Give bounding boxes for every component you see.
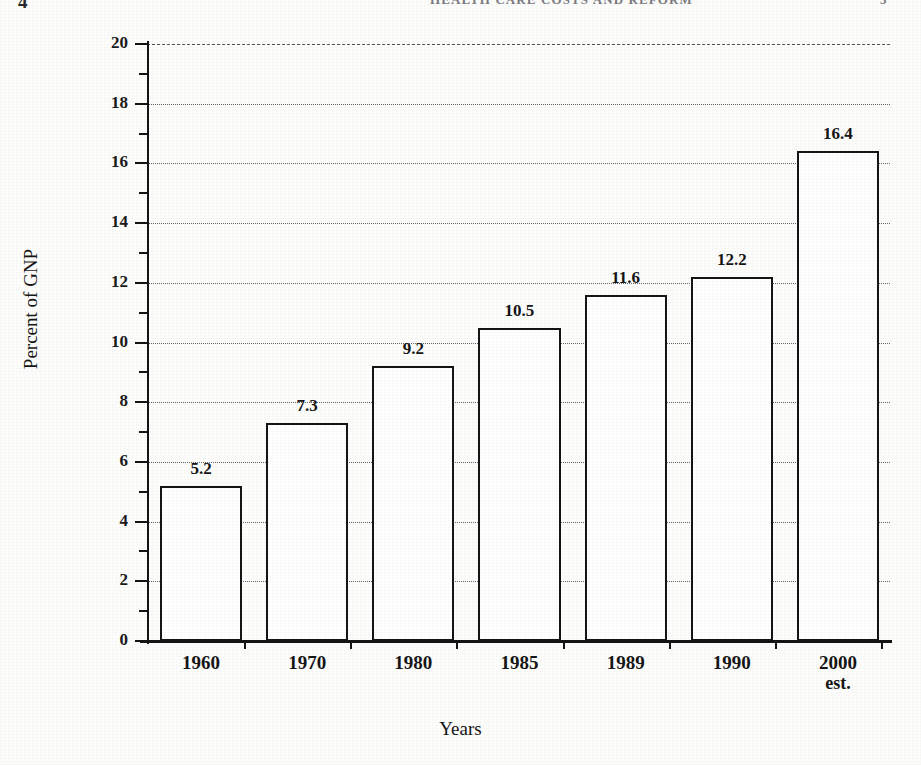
bar-1990 <box>691 277 773 641</box>
y-axis-title: Percent of GNP <box>20 199 42 419</box>
x-tick-sublabel-2000: est. <box>775 673 901 693</box>
y-tick-label-16: 16 <box>88 152 128 172</box>
x-axis-title: Years <box>0 718 921 740</box>
y-tick-16 <box>135 162 148 164</box>
y-tick-20 <box>135 43 148 45</box>
x-tick-1989 <box>669 640 671 649</box>
y-minor-tick-17 <box>139 133 148 135</box>
y-minor-tick-1 <box>139 610 148 612</box>
bar-value-label-1960: 5.2 <box>146 459 256 479</box>
y-tick-4 <box>135 521 148 523</box>
bar-1960 <box>160 486 242 641</box>
y-minor-tick-19 <box>139 73 148 75</box>
x-tick-label-2000: 2000est. <box>775 652 901 693</box>
x-axis-line <box>140 640 892 643</box>
gridline-16 <box>147 163 890 164</box>
y-tick-label-0: 0 <box>88 630 128 650</box>
x-tick-1990 <box>775 640 777 649</box>
x-tick-1970 <box>350 640 352 649</box>
bar-1989 <box>585 295 667 641</box>
y-tick-label-18: 18 <box>88 93 128 113</box>
gridline-20 <box>147 44 890 45</box>
y-tick-2 <box>135 580 148 582</box>
y-tick-label-14: 14 <box>88 212 128 232</box>
y-minor-tick-5 <box>139 491 148 493</box>
y-minor-tick-7 <box>139 431 148 433</box>
bar-value-label-1980: 9.2 <box>358 339 468 359</box>
scanned-page: 4 HEALTH CARE COSTS AND REFORM 5 0246810… <box>0 0 921 765</box>
y-minor-tick-3 <box>139 550 148 552</box>
bar-value-label-1985: 10.5 <box>464 301 574 321</box>
bar-1980 <box>372 366 454 641</box>
y-minor-tick-9 <box>139 371 148 373</box>
y-tick-10 <box>135 342 148 344</box>
bar-chart-figure: 02468101214161820 1960197019801985198919… <box>0 0 921 765</box>
y-minor-tick-13 <box>139 252 148 254</box>
y-tick-label-20: 20 <box>88 33 128 53</box>
plot-area <box>147 44 890 641</box>
y-tick-label-10: 10 <box>88 332 128 352</box>
gridline-14 <box>147 223 890 224</box>
y-tick-18 <box>135 103 148 105</box>
y-tick-14 <box>135 222 148 224</box>
y-tick-12 <box>135 282 148 284</box>
y-minor-tick-15 <box>139 192 148 194</box>
x-tick-1985 <box>563 640 565 649</box>
bar-1985 <box>478 328 560 641</box>
gridline-12 <box>147 283 890 284</box>
x-tick-1980 <box>456 640 458 649</box>
bar-value-label-1970: 7.3 <box>252 396 362 416</box>
y-minor-tick-11 <box>139 312 148 314</box>
bar-value-label-2000: 16.4 <box>783 124 893 144</box>
y-tick-8 <box>135 401 148 403</box>
bar-1970 <box>266 423 348 641</box>
bar-2000 <box>797 151 879 641</box>
y-tick-label-12: 12 <box>88 272 128 292</box>
y-tick-label-8: 8 <box>88 391 128 411</box>
bar-value-label-1989: 11.6 <box>571 268 681 288</box>
gridline-18 <box>147 104 890 105</box>
y-tick-label-6: 6 <box>88 451 128 471</box>
x-tick-1960 <box>244 640 246 649</box>
x-tick-2000 <box>881 640 883 649</box>
y-tick-label-2: 2 <box>88 570 128 590</box>
y-tick-label-4: 4 <box>88 511 128 531</box>
bar-value-label-1990: 12.2 <box>677 250 787 270</box>
